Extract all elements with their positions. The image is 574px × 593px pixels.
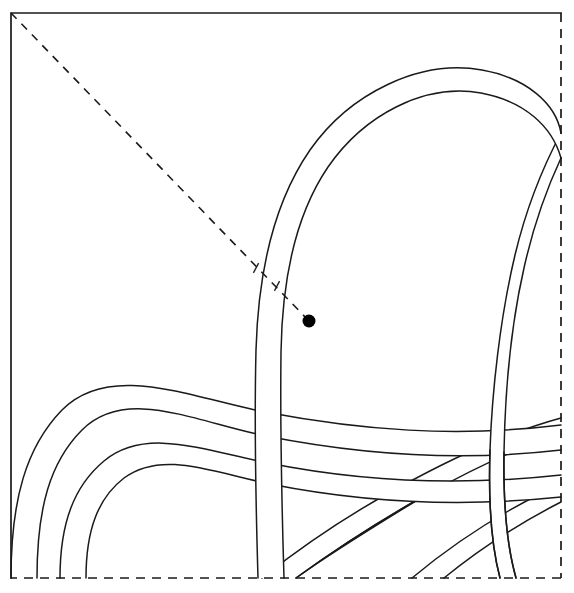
figure-canvas [0, 0, 574, 593]
diagonal-guide-line [11, 13, 309, 321]
woven-band-diagram [0, 0, 574, 593]
band-diagonal-a-edge-2a [296, 496, 424, 578]
band-group [11, 68, 561, 578]
marker-dot [303, 315, 316, 328]
